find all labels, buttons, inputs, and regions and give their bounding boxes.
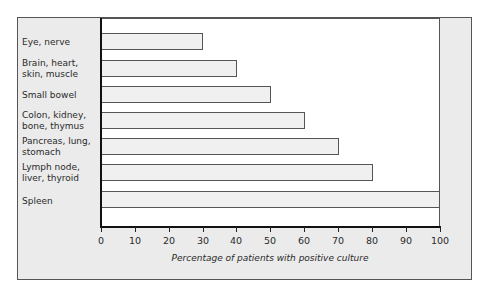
category-label-spleen: Spleen (22, 196, 98, 207)
bar-pancreas-lung-stomach (102, 138, 339, 155)
x-tick-label: 10 (120, 235, 150, 246)
bar-spleen (102, 191, 440, 208)
label-line: Colon, kidney, (22, 110, 98, 121)
y-axis-line (100, 18, 102, 228)
label-line: Brain, heart, (22, 58, 98, 69)
x-tick-label: 50 (255, 235, 285, 246)
x-tick (101, 227, 102, 232)
x-tick-label: 30 (188, 235, 218, 246)
label-line: skin, muscle (22, 69, 98, 80)
x-tick (372, 227, 373, 232)
bar-brain-heart-skin-muscle (102, 60, 237, 77)
x-tick (270, 227, 271, 232)
category-label-colon: Colon, kidney, bone, thymus (22, 110, 98, 132)
x-tick-label: 90 (391, 235, 421, 246)
label-line: Lymph node, (22, 162, 98, 173)
x-axis-label: Percentage of patients with positive cul… (100, 253, 440, 263)
category-label-small-bowel: Small bowel (22, 90, 98, 101)
x-tick (169, 227, 170, 232)
label-line: Pancreas, lung, (22, 136, 98, 147)
bar-small-bowel (102, 86, 271, 103)
x-tick-label: 70 (323, 235, 353, 246)
label-line: liver, thyroid (22, 173, 98, 184)
label-line: Eye, nerve (22, 37, 98, 48)
x-tick (203, 227, 204, 232)
bar-colon-kidney-bone-thymus (102, 112, 305, 129)
x-tick-label: 80 (357, 235, 387, 246)
label-line: Small bowel (22, 90, 98, 101)
x-tick (338, 227, 339, 232)
category-label-brain: Brain, heart, skin, muscle (22, 58, 98, 80)
x-tick-label: 40 (221, 235, 251, 246)
x-tick (406, 227, 407, 232)
x-tick (135, 227, 136, 232)
x-tick-label: 20 (154, 235, 184, 246)
x-tick-label: 0 (86, 235, 116, 246)
x-tick-label: 100 (425, 235, 455, 246)
category-label-eye-nerve: Eye, nerve (22, 37, 98, 48)
category-label-lymph: Lymph node, liver, thyroid (22, 162, 98, 184)
bar-lymph-liver-thyroid (102, 164, 373, 181)
bar-eye-nerve (102, 33, 203, 50)
category-label-pancreas: Pancreas, lung, stomach (22, 136, 98, 158)
x-tick (236, 227, 237, 232)
label-line: stomach (22, 147, 98, 158)
x-tick-label: 60 (289, 235, 319, 246)
x-tick (440, 227, 441, 232)
label-line: bone, thymus (22, 121, 98, 132)
label-line: Spleen (22, 196, 98, 207)
x-tick (304, 227, 305, 232)
